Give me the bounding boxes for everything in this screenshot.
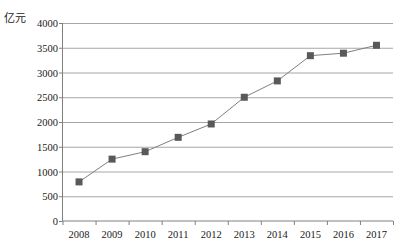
line-chart: 亿元 4000 3500 3000 2500 2000 1500 1000 50…	[0, 0, 405, 252]
x-axis-tick-label: 2008	[69, 229, 90, 240]
x-axis-tick-label: 2013	[234, 229, 255, 240]
x-axis-tick-label: 2015	[300, 229, 321, 240]
x-axis-tick-label: 2012	[201, 229, 222, 240]
x-axis-tick-label: 2010	[135, 229, 156, 240]
x-axis-tick-label: 2016	[333, 229, 354, 240]
x-axis-tick-label: 2009	[102, 229, 123, 240]
x-axis-tick-labels: 2008200920102011201220132014201520162017	[0, 0, 405, 252]
x-axis-tick-label: 2017	[366, 229, 387, 240]
x-axis-tick-label: 2014	[267, 229, 288, 240]
x-axis-tick-label: 2011	[168, 229, 189, 240]
